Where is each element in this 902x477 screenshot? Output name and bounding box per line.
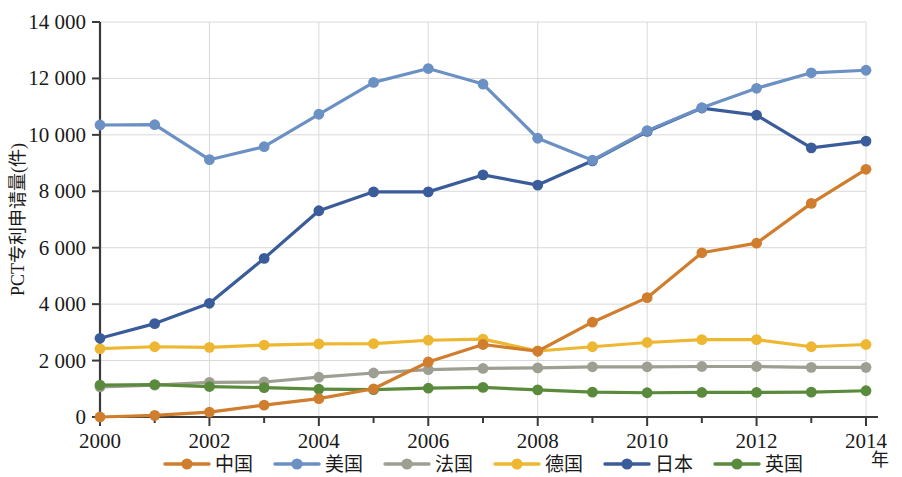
x-tick-label: 2000	[79, 429, 121, 453]
data-point	[642, 337, 653, 348]
data-point	[313, 109, 324, 120]
data-point	[751, 387, 762, 398]
y-tick-label: 4 000	[39, 292, 86, 316]
y-tick-label: 12 000	[28, 66, 86, 90]
data-series	[95, 63, 872, 422]
series-line-0	[100, 169, 866, 417]
data-point	[259, 400, 270, 411]
data-point	[204, 407, 215, 418]
data-point	[204, 298, 215, 309]
y-tick-label: 6 000	[39, 236, 86, 260]
y-axis-title: PCT专利申请量(件)	[8, 143, 29, 296]
data-point	[532, 346, 543, 357]
x-tick-label: 2002	[188, 429, 230, 453]
data-point	[587, 341, 598, 352]
legend-item-3[interactable]: 德国	[495, 454, 583, 475]
data-point	[478, 363, 489, 374]
data-point	[861, 164, 872, 175]
data-point	[806, 67, 817, 78]
data-point	[313, 339, 324, 350]
data-point	[642, 387, 653, 398]
data-point	[696, 102, 707, 113]
data-point	[95, 333, 106, 344]
data-point	[642, 125, 653, 136]
y-tick-label: 14 000	[28, 10, 86, 34]
legend-item-2[interactable]: 法国	[385, 454, 473, 475]
data-point	[204, 154, 215, 165]
y-tick-label: 10 000	[28, 123, 86, 147]
x-axis-tick-labels: 20002002200420062008201020122014	[79, 429, 888, 453]
data-point	[149, 379, 160, 390]
data-point	[587, 361, 598, 372]
data-point	[368, 77, 379, 88]
data-point	[861, 362, 872, 373]
x-axis-title: 年	[871, 450, 889, 470]
data-point	[696, 361, 707, 372]
data-point	[532, 180, 543, 191]
legend: 中国美国法国德国日本英国	[165, 454, 803, 475]
data-point	[149, 341, 160, 352]
pct-patent-applications-chart: 02 0004 0006 0008 00010 00012 00014 000 …	[0, 0, 902, 477]
y-axis-title-text: PCT专利申请量(件)	[8, 143, 29, 296]
data-point	[751, 238, 762, 249]
legend-label-text: 美国	[325, 454, 363, 475]
data-point	[95, 343, 106, 354]
x-tick-label: 2004	[298, 429, 341, 453]
x-tick-label: 2012	[736, 429, 778, 453]
legend-swatch-marker	[731, 458, 742, 469]
data-point	[259, 382, 270, 393]
data-point	[313, 393, 324, 404]
legend-item-4[interactable]: 日本	[605, 454, 693, 475]
legend-item-0[interactable]: 中国	[165, 454, 253, 475]
data-point	[149, 318, 160, 329]
legend-swatch-marker	[181, 458, 192, 469]
data-point	[478, 79, 489, 90]
data-point	[313, 372, 324, 383]
data-point	[368, 383, 379, 394]
y-tick-label: 2 000	[39, 349, 86, 373]
data-point	[368, 368, 379, 379]
legend-label-text: 日本	[655, 454, 693, 475]
data-point	[478, 382, 489, 393]
chart-canvas: 02 0004 0006 0008 00010 00012 00014 000 …	[0, 0, 902, 477]
data-point	[423, 383, 434, 394]
legend-item-5[interactable]: 英国	[715, 454, 803, 475]
legend-swatch-marker	[511, 458, 522, 469]
data-point	[696, 247, 707, 258]
x-tick-label: 2008	[517, 429, 559, 453]
data-point	[806, 362, 817, 373]
data-point	[149, 410, 160, 421]
data-point	[861, 385, 872, 396]
y-axis-tick-labels: 02 0004 0006 0008 00010 00012 00014 000	[28, 10, 86, 429]
legend-label-text: 中国	[215, 454, 253, 475]
legend-label-text: 德国	[545, 454, 583, 475]
data-point	[423, 357, 434, 368]
legend-label-text: 法国	[435, 454, 473, 475]
legend-swatch-marker	[621, 458, 632, 469]
data-point	[95, 380, 106, 391]
data-point	[861, 65, 872, 76]
data-point	[478, 339, 489, 350]
data-point	[423, 63, 434, 74]
data-point	[806, 198, 817, 209]
data-point	[423, 335, 434, 346]
data-point	[806, 341, 817, 352]
data-point	[642, 361, 653, 372]
data-point	[587, 387, 598, 398]
data-point	[259, 141, 270, 152]
x-axis-title-text: 年	[871, 450, 889, 470]
data-point	[751, 110, 762, 121]
data-point	[642, 292, 653, 303]
data-point	[587, 317, 598, 328]
legend-swatch-marker	[401, 458, 412, 469]
data-point	[861, 339, 872, 350]
x-tick-label: 2010	[626, 429, 668, 453]
data-point	[95, 120, 106, 131]
legend-item-1[interactable]: 美国	[275, 454, 363, 475]
data-point	[861, 136, 872, 147]
data-point	[313, 384, 324, 395]
legend-label-text: 英国	[765, 454, 803, 475]
data-point	[149, 119, 160, 130]
data-point	[751, 83, 762, 94]
y-tick-label: 8 000	[39, 179, 86, 203]
